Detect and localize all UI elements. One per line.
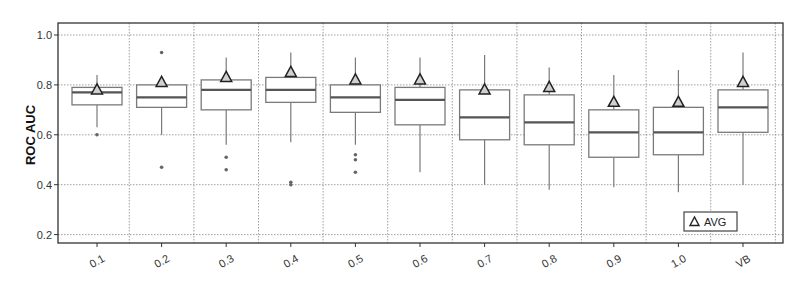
avg-triangle-marker: [156, 76, 167, 86]
outlier-point: [95, 133, 99, 137]
y-axis: 0.20.40.60.81.0: [37, 29, 58, 241]
iqr-box: [395, 87, 445, 124]
iqr-box: [330, 85, 380, 112]
box-0.3: [201, 57, 251, 171]
x-tick-label: 0.8: [540, 252, 559, 270]
box-0.5: [330, 57, 380, 174]
box-0.8: [524, 67, 574, 189]
box-0.9: [589, 75, 639, 187]
x-tick-label: 0.5: [346, 252, 365, 270]
outlier-point: [354, 158, 358, 162]
box-series: [72, 51, 768, 193]
box-plot-chart: 0.20.40.60.81.0 0.10.20.30.40.50.60.70.8…: [0, 0, 797, 281]
x-axis: 0.10.20.30.40.50.60.70.80.91.0VB: [87, 243, 752, 270]
box-0.1: [72, 75, 122, 137]
outlier-point: [160, 51, 164, 55]
y-axis-label: ROC AUC: [23, 104, 38, 165]
box-1.0: [653, 70, 703, 192]
iqr-box: [201, 80, 251, 110]
outlier-point: [354, 153, 358, 157]
avg-triangle-marker: [673, 96, 684, 106]
box-0.6: [395, 57, 445, 172]
x-tick-label: 1.0: [669, 252, 688, 270]
avg-triangle-marker: [479, 84, 490, 94]
x-tick-label: 0.3: [217, 252, 236, 270]
x-tick-label: VB: [734, 252, 753, 270]
outlier-point: [160, 165, 164, 169]
iqr-box: [137, 85, 187, 107]
x-tick-label: 0.1: [87, 252, 106, 270]
x-tick-label: 0.7: [475, 252, 494, 270]
iqr-box: [460, 90, 510, 140]
x-tick-label: 0.2: [152, 252, 171, 270]
iqr-box: [589, 110, 639, 157]
box-0.2: [137, 51, 187, 169]
box-VB: [718, 52, 768, 184]
outlier-point: [224, 155, 228, 159]
iqr-box: [524, 95, 574, 145]
avg-triangle-marker: [285, 66, 296, 76]
legend: AVG: [684, 212, 737, 231]
y-tick-label: 0.6: [37, 129, 52, 141]
avg-triangle-marker: [738, 76, 749, 86]
avg-triangle-marker: [415, 74, 426, 84]
box-0.4: [266, 52, 316, 186]
avg-triangle-marker: [221, 71, 232, 81]
y-tick-label: 0.8: [37, 79, 52, 91]
y-tick-label: 1.0: [37, 29, 52, 41]
iqr-box: [718, 90, 768, 132]
y-tick-label: 0.4: [37, 179, 52, 191]
avg-triangle-marker: [544, 81, 555, 91]
outlier-point: [224, 168, 228, 172]
x-tick-label: 0.6: [410, 252, 429, 270]
outlier-point: [289, 183, 293, 187]
x-tick-label: 0.9: [604, 252, 623, 270]
x-tick-label: 0.4: [281, 252, 300, 270]
iqr-box: [653, 107, 703, 154]
avg-triangle-marker: [350, 74, 361, 84]
outlier-point: [354, 170, 358, 174]
box-0.7: [460, 55, 510, 185]
legend-label-avg: AVG: [704, 216, 726, 228]
avg-triangle-marker: [608, 96, 619, 106]
y-tick-label: 0.2: [37, 229, 52, 241]
